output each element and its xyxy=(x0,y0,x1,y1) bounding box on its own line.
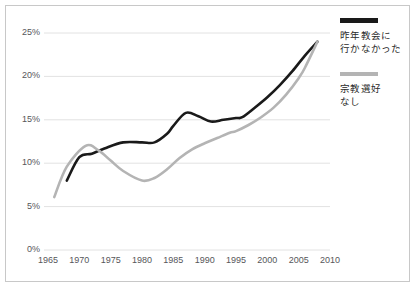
y-axis-tick-label: 0% xyxy=(10,244,40,254)
x-axis-tick-label: 1990 xyxy=(188,255,222,265)
x-axis-tick-label: 2005 xyxy=(282,255,316,265)
x-axis-tick-label: 1995 xyxy=(219,255,253,265)
x-axis-tick-label: 1965 xyxy=(31,255,65,265)
x-axis-tick-label: 1980 xyxy=(125,255,159,265)
y-axis-tick-label: 5% xyxy=(10,201,40,211)
x-axis-tick-label: 1985 xyxy=(156,255,190,265)
x-axis-tick-label: 1970 xyxy=(62,255,96,265)
chart-figure: 0%5%10%15%20%25% 19651970197519801985199… xyxy=(0,0,417,294)
series-line-no-church-attendance xyxy=(67,42,318,181)
legend-entry-no-religious-preference: 宗教選好 なし xyxy=(340,72,414,108)
legend-swatch xyxy=(340,72,378,76)
legend-entry-no-church-attendance: 昨年教会に 行かなかった xyxy=(340,18,414,55)
x-axis-tick-label: 2010 xyxy=(313,255,347,265)
legend-label: 宗教選好 なし xyxy=(340,82,414,108)
y-axis-tick-label: 20% xyxy=(10,70,40,80)
legend-swatch xyxy=(340,18,378,23)
y-axis-tick-label: 25% xyxy=(10,27,40,37)
gridlines-group xyxy=(44,33,330,250)
x-axis-tick-label: 1975 xyxy=(94,255,128,265)
y-axis-tick-label: 10% xyxy=(10,157,40,167)
x-axis-tick-label: 2000 xyxy=(250,255,284,265)
legend-label: 昨年教会に 行かなかった xyxy=(340,29,414,55)
y-axis-tick-label: 15% xyxy=(10,114,40,124)
chart-legend: 昨年教会に 行かなかった宗教選好 なし xyxy=(340,18,414,125)
